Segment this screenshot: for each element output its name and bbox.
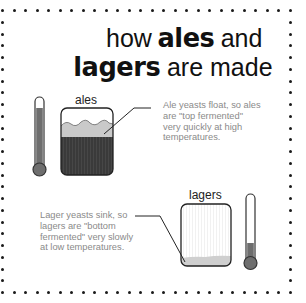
- lagers-description-line: fermented" very slowly: [40, 232, 133, 243]
- lagers-description-line: Lager yeasts sink, so: [40, 210, 133, 221]
- lagers-pointer-line: [135, 216, 185, 262]
- ales-description-line: are "top fermented": [163, 111, 261, 122]
- ales-thermometer-icon: [33, 97, 46, 176]
- lagers-description: Lager yeasts sink, so lagers are "bottom…: [40, 210, 133, 253]
- lagers-description-line: lagers are "bottom: [40, 221, 133, 232]
- ales-description-line: very quickly at high: [163, 122, 261, 133]
- lagers-thermometer-icon: [244, 194, 257, 270]
- diagram-graphics: [0, 0, 306, 303]
- ales-description-line: temperatures.: [163, 132, 261, 143]
- ales-description-line: Ale yeasts float, so ales: [163, 100, 261, 111]
- lagers-description-line: at low temperatures.: [40, 242, 133, 253]
- ales-description: Ale yeasts float, so ales are "top ferme…: [163, 100, 261, 143]
- lagers-jar-icon: [181, 204, 231, 266]
- ales-jar-icon: [61, 108, 113, 177]
- lagers-label: lagers: [189, 188, 222, 202]
- ales-label: ales: [75, 93, 97, 107]
